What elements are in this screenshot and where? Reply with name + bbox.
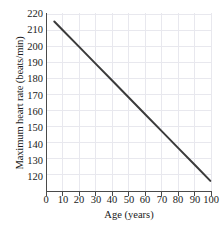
- plot-area: [46, 13, 212, 191]
- y-tick-label: 180: [17, 74, 43, 85]
- y-tick-label: 130: [17, 156, 43, 167]
- x-axis-title: Age (years): [46, 209, 212, 220]
- data-line-series-0: [54, 21, 210, 180]
- y-tick-label: 160: [17, 107, 43, 118]
- plot-svg: [46, 13, 222, 203]
- y-tick-label: 170: [17, 91, 43, 102]
- y-tick-label: 190: [17, 58, 43, 69]
- y-tick-label: 210: [17, 25, 43, 36]
- y-tick-label: 140: [17, 140, 43, 151]
- chart-figure: Maximum heart rate (beats/min) 220 210 2…: [0, 0, 223, 228]
- y-tick-label: 220: [17, 9, 43, 20]
- y-tick-label: 150: [17, 123, 43, 134]
- y-axis-tick-labels: 220 210 200 190 180 170 160 150 140 130 …: [13, 0, 43, 228]
- y-tick-label: 120: [17, 172, 43, 183]
- x-tick-label: 100: [199, 195, 223, 206]
- y-tick-label: 200: [17, 42, 43, 53]
- x-axis-tick-labels: 0 10 20 30 40 50 60 70 80 90 100: [46, 195, 223, 209]
